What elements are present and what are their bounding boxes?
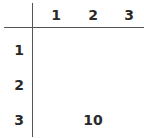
row-header: 2: [7, 77, 31, 93]
vertical-divider: [32, 3, 33, 137]
column-header: 2: [81, 7, 105, 23]
column-header: 3: [117, 7, 141, 23]
horizontal-divider: [4, 27, 144, 28]
row-header: 3: [7, 112, 31, 128]
table-cell: 10: [78, 112, 108, 128]
column-header: 1: [44, 7, 68, 23]
row-header: 1: [7, 42, 31, 58]
